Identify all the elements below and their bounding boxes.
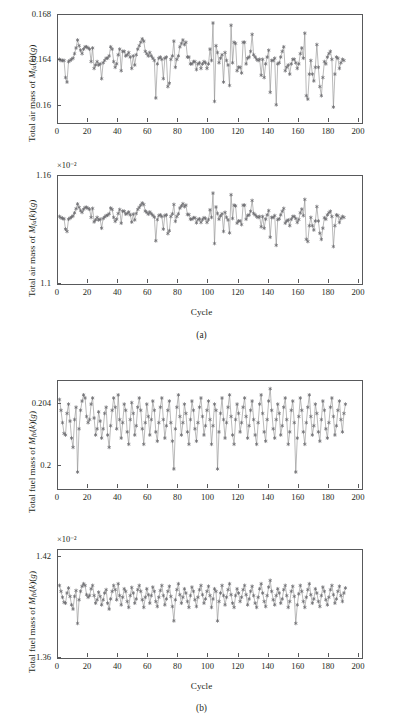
x-tick-mark: [87, 279, 88, 283]
chart-panel-4: Total fuel mass of Mfb(k)(g) ×10⁻² 1.361…: [0, 528, 403, 722]
x-tick-mark: [207, 118, 208, 122]
x-tick-mark: [147, 279, 148, 283]
x-tick-mark: [268, 279, 269, 283]
x-tick-mark: [147, 118, 148, 122]
y-tick-label: 0.168: [0, 10, 51, 19]
x-tick-label: 200: [352, 662, 365, 671]
series-3: [58, 381, 362, 489]
x-tick-label: 80: [173, 288, 182, 297]
y-tick-mark: [57, 657, 61, 658]
x-tick-mark: [358, 484, 359, 488]
x-tick-label: 180: [321, 288, 334, 297]
x-tick-label: 200: [352, 127, 365, 136]
x-tick-mark: [358, 279, 359, 283]
x-tick-mark: [177, 653, 178, 657]
x-tick-label: 60: [143, 288, 152, 297]
x-axis-label-2: Cycle: [0, 307, 403, 317]
x-tick-mark: [207, 653, 208, 657]
x-tick-mark: [298, 653, 299, 657]
chart-panel-3: Total fuel mass of Mfb(k)(g) 0.20.204 02…: [0, 368, 403, 528]
y-tick-label: 0.16: [0, 101, 51, 110]
y-tick-label: 0.2: [0, 461, 51, 470]
chart-panel-2: Total air mass of Mfa(k)(g) ×10⁻² 1.11.1…: [0, 155, 403, 360]
x-tick-label: 60: [143, 493, 152, 502]
y-axis-exponent-4: ×10⁻²: [57, 534, 77, 544]
y-tick-mark: [57, 175, 61, 176]
x-tick-label: 180: [321, 662, 334, 671]
series-2: [58, 176, 362, 284]
x-tick-mark: [87, 653, 88, 657]
x-tick-mark: [328, 279, 329, 283]
plot-area-2: [57, 175, 363, 285]
x-tick-mark: [358, 118, 359, 122]
y-tick-mark: [57, 465, 61, 466]
x-tick-mark: [207, 279, 208, 283]
x-tick-label: 20: [83, 662, 92, 671]
x-tick-label: 200: [352, 288, 365, 297]
x-tick-mark: [238, 653, 239, 657]
x-tick-label: 120: [231, 493, 244, 502]
x-tick-label: 160: [291, 662, 304, 671]
x-tick-mark: [268, 484, 269, 488]
series-4: [58, 550, 362, 658]
x-tick-label: 100: [201, 662, 214, 671]
x-tick-mark: [87, 118, 88, 122]
y-tick-label: 1.42: [0, 551, 51, 560]
x-tick-mark: [328, 484, 329, 488]
x-tick-mark: [238, 484, 239, 488]
y-tick-mark: [57, 105, 61, 106]
x-tick-label: 0: [55, 127, 59, 136]
plot-area-1: [57, 14, 363, 124]
x-tick-label: 140: [261, 493, 274, 502]
subfigure-caption-a: (a): [0, 330, 403, 340]
x-tick-label: 160: [291, 288, 304, 297]
x-tick-label: 100: [201, 493, 214, 502]
x-tick-label: 80: [173, 493, 182, 502]
x-tick-mark: [57, 484, 58, 488]
x-tick-label: 120: [231, 127, 244, 136]
x-tick-mark: [57, 279, 58, 283]
x-tick-label: 100: [201, 288, 214, 297]
x-tick-label: 60: [143, 662, 152, 671]
x-tick-mark: [147, 653, 148, 657]
x-tick-mark: [117, 118, 118, 122]
x-tick-label: 20: [83, 493, 92, 502]
x-tick-label: 0: [55, 493, 59, 502]
x-tick-label: 40: [113, 127, 122, 136]
x-tick-mark: [117, 484, 118, 488]
x-tick-mark: [268, 118, 269, 122]
y-tick-mark: [57, 556, 61, 557]
x-tick-mark: [207, 484, 208, 488]
x-tick-label: 20: [83, 288, 92, 297]
x-tick-mark: [238, 279, 239, 283]
x-tick-label: 160: [291, 493, 304, 502]
x-tick-label: 120: [231, 662, 244, 671]
x-tick-label: 0: [55, 662, 59, 671]
x-tick-label: 20: [83, 127, 92, 136]
x-tick-label: 0: [55, 288, 59, 297]
y-axis-exponent-2: ×10⁻²: [57, 160, 77, 170]
x-tick-label: 100: [201, 127, 214, 136]
x-tick-label: 160: [291, 127, 304, 136]
x-tick-label: 80: [173, 127, 182, 136]
x-tick-mark: [57, 653, 58, 657]
y-tick-mark: [57, 14, 61, 15]
x-tick-mark: [177, 118, 178, 122]
x-tick-label: 40: [113, 662, 122, 671]
x-tick-mark: [268, 653, 269, 657]
x-tick-mark: [238, 118, 239, 122]
x-axis-label-4: Cycle: [0, 681, 403, 691]
y-tick-label: 1.16: [0, 171, 51, 180]
x-tick-label: 80: [173, 662, 182, 671]
x-tick-mark: [298, 484, 299, 488]
y-tick-mark: [57, 283, 61, 284]
x-tick-label: 140: [261, 127, 274, 136]
y-tick-label: 0.164: [0, 55, 51, 64]
plot-area-4: [57, 549, 363, 659]
x-tick-mark: [147, 484, 148, 488]
x-tick-mark: [177, 279, 178, 283]
y-tick-mark: [57, 403, 61, 404]
x-tick-mark: [328, 118, 329, 122]
x-tick-mark: [358, 653, 359, 657]
x-tick-label: 40: [113, 288, 122, 297]
